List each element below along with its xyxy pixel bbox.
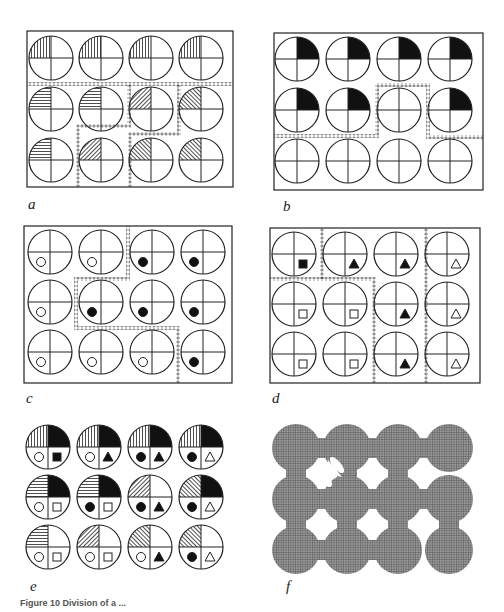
panel-e <box>26 425 223 569</box>
panel-label-d: d <box>272 390 280 407</box>
panel-b <box>274 33 483 190</box>
figure-canvas <box>0 0 504 612</box>
panel-label-f: f <box>286 578 290 595</box>
panel-c <box>24 226 232 383</box>
panel-a <box>27 31 233 187</box>
panel-d <box>270 228 480 383</box>
panel-label-a: a <box>28 196 36 213</box>
panel-f <box>272 424 473 574</box>
panel-label-c: c <box>26 390 33 407</box>
panel-label-e: e <box>30 578 37 595</box>
panel-label-b: b <box>283 198 291 215</box>
figure-caption: Figure 10 Division of a ... <box>20 598 126 608</box>
